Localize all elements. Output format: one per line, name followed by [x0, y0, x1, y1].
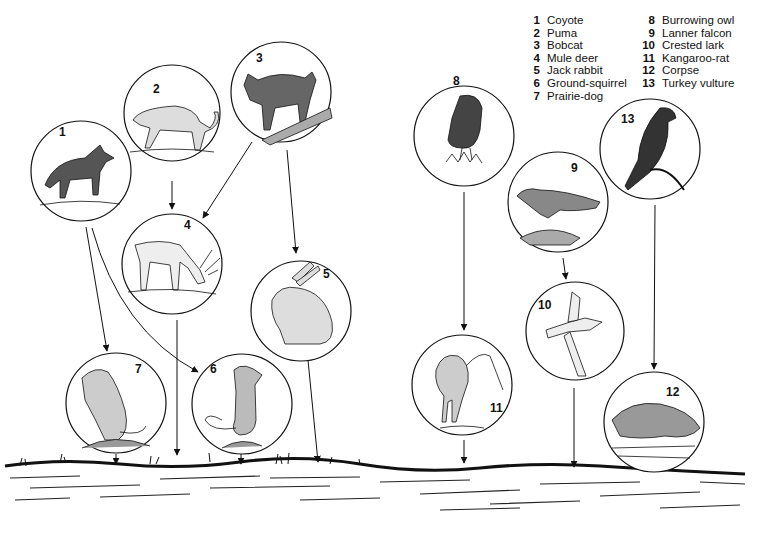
legend-name: Mule deer	[547, 52, 598, 65]
node-label: 2	[153, 82, 160, 96]
legend-name: Puma	[547, 27, 577, 40]
node-label: 12	[666, 385, 680, 399]
node-ground-squirrel: 6	[192, 354, 292, 454]
legend-item: 2Puma	[530, 27, 627, 40]
legend-item: 7Prairie-dog	[530, 90, 627, 103]
food-web-nodes: 1 2 3 4	[31, 42, 704, 472]
legend-name: Kangaroo-rat	[662, 52, 729, 65]
node-label: 3	[256, 51, 263, 65]
node-label: 7	[135, 362, 142, 376]
legend-item: 1Coyote	[530, 14, 627, 27]
legend-name: Prairie-dog	[547, 90, 603, 103]
legend-name: Bobcat	[547, 39, 583, 52]
node-label: 13	[621, 112, 635, 126]
legend-name: Turkey vulture	[662, 77, 734, 90]
edge-bobcat-to-rabbit	[287, 150, 296, 253]
legend-name: Corpse	[662, 64, 699, 77]
legend-item: 5Jack rabbit	[530, 64, 627, 77]
legend-name: Jack rabbit	[547, 64, 603, 77]
legend-name: Coyote	[547, 14, 583, 27]
node-prairie-dog: 7	[66, 353, 166, 453]
node-label: 5	[323, 267, 330, 281]
legend-item: 3Bobcat	[530, 39, 627, 52]
node-label: 4	[184, 218, 191, 232]
legend-column-a: 1Coyote 2Puma 3Bobcat 4Mule deer 5Jack r…	[530, 14, 627, 102]
node-burrowing-owl: 8	[414, 74, 514, 186]
node-crested-lark: 10	[526, 282, 624, 380]
legend-item: 12Corpse	[641, 64, 734, 77]
edge-falcon-to-lark	[563, 258, 566, 279]
node-bobcat: 3	[231, 42, 332, 145]
node-label: 1	[59, 125, 66, 139]
legend-name: Burrowing owl	[662, 14, 734, 27]
node-label: 8	[453, 74, 460, 88]
legend-name: Crested lark	[662, 39, 724, 52]
node-label: 6	[210, 362, 217, 376]
legend-name: Ground-squirrel	[547, 77, 627, 90]
edge-vulture-to-corpse	[654, 205, 655, 369]
legend-name: Lanner falcon	[662, 27, 732, 40]
legend-column-b: 8Burrowing owl 9Lanner falcon 10Crested …	[641, 14, 734, 90]
edge-rabbit-to-ground	[308, 360, 318, 462]
legend-item: 10Crested lark	[641, 39, 734, 52]
node-lanner-falcon: 9	[508, 152, 608, 252]
node-turkey-vulture: 13	[600, 99, 700, 199]
legend-item: 4Mule deer	[530, 52, 627, 65]
legend-item: 6Ground-squirrel	[530, 77, 627, 90]
legend-item: 8Burrowing owl	[641, 14, 734, 27]
node-corpse: 12	[604, 372, 704, 472]
legend-item: 11Kangaroo-rat	[641, 52, 734, 65]
node-label: 10	[538, 298, 552, 312]
node-jack-rabbit: 5	[251, 261, 351, 361]
node-puma: 2	[124, 65, 220, 161]
node-kangaroo-rat: 11	[412, 335, 512, 435]
node-mule-deer: 4	[122, 214, 222, 314]
legend-item: 13Turkey vulture	[641, 77, 734, 90]
edge-coyote-to-prairiedog	[86, 227, 107, 351]
node-label: 11	[490, 401, 503, 415]
node-coyote: 1	[31, 121, 131, 221]
edge-bobcat-to-deer	[203, 142, 252, 218]
node-label: 9	[571, 161, 578, 175]
legend-item: 9Lanner falcon	[641, 27, 734, 40]
